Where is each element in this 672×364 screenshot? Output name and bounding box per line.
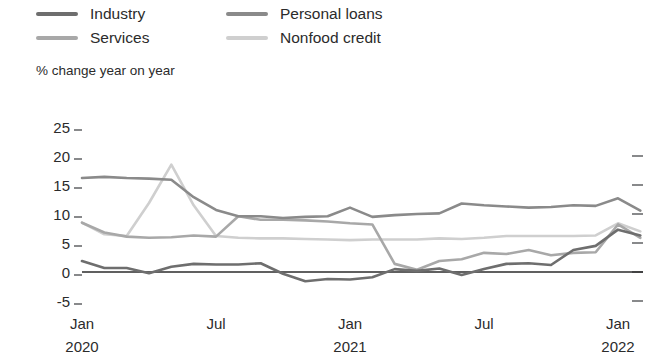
y-tick-label: 15 xyxy=(53,177,70,194)
x-tick-year-label: 2021 xyxy=(333,338,366,355)
x-tick-year-label: 2020 xyxy=(65,338,98,355)
series-line-nonfood-credit xyxy=(82,165,640,240)
x-tick-label: Jan xyxy=(70,315,94,332)
y-tick-label: 5 xyxy=(62,235,70,252)
series-line-personal-loans xyxy=(82,177,640,218)
x-axis-labels: Jan2020JulJan2021JulJan2022 xyxy=(65,315,634,355)
y-tick-label: 0 xyxy=(62,264,70,281)
x-tick-label: Jan xyxy=(606,315,630,332)
chart-container: Industry Services Personal loans Nonfood… xyxy=(0,0,672,364)
x-tick-year-label: 2022 xyxy=(601,338,634,355)
x-tick-label: Jul xyxy=(474,315,493,332)
y-tick-label: -5 xyxy=(57,293,70,310)
x-tick-label: Jan xyxy=(338,315,362,332)
y-tick-label: 20 xyxy=(53,148,70,165)
chart-svg: 2520151050-5 Jan2020JulJan2021JulJan2022 xyxy=(0,0,672,364)
x-tick-label: Jul xyxy=(206,315,225,332)
plot-area: 2520151050-5 Jan2020JulJan2021JulJan2022 xyxy=(0,0,672,364)
y-axis-ticks: 2520151050-5 xyxy=(53,119,82,310)
y-tick-label: 10 xyxy=(53,206,70,223)
data-series-group xyxy=(82,165,640,282)
y-tick-label: 25 xyxy=(53,119,70,136)
